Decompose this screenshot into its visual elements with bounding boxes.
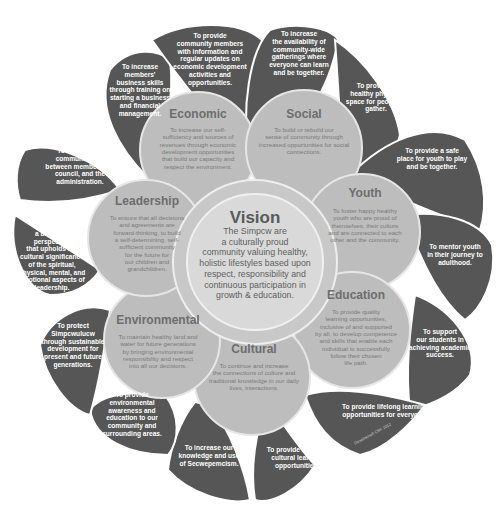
petal-text-lead-communication: To foster good communication between mem… <box>40 147 120 186</box>
petal-text-social-gatherings: To increase the availability of communit… <box>262 30 336 77</box>
petal-text-edu-lifelong: To provide lifelong learning opportuniti… <box>330 403 440 419</box>
pillar-education-text: To provide quality learning opportunitie… <box>306 308 406 367</box>
petal-text-youth-mentor: To mentor youth in their journey to adul… <box>420 243 490 266</box>
petal-text-social-space: To provide a healthy physical space for … <box>340 82 412 113</box>
petal-text-lead-balanced: To provide a balanced perspective that u… <box>12 222 92 292</box>
petal-text-edu-support: To support our students in achieving aca… <box>405 328 475 359</box>
pillar-youth-text: To foster happy healthy youth who are pr… <box>315 207 415 244</box>
pillar-leadership-title: Leadership <box>97 194 197 208</box>
petal-text-cult-language: To increase our knowledge and use of Sec… <box>174 444 244 467</box>
pillar-economic-text: To increase our self- sufficiency and so… <box>148 126 248 170</box>
pillar-youth-title: Youth <box>315 186 415 200</box>
pillar-cultural-title: Cultural <box>204 342 304 356</box>
pillar-education-title: Education <box>306 288 406 302</box>
vision-diagram: Vision The Simpcw are a culturally proud… <box>0 0 498 510</box>
pillar-cultural-text: To continue and increase the connections… <box>200 362 308 391</box>
pillar-leadership-text: To ensure that all decisions and agreeme… <box>97 214 197 273</box>
petal-text-env-awareness: To provide environmental awareness and e… <box>95 391 169 438</box>
petal-text-econ-info: To provide community members with inform… <box>160 32 260 86</box>
petal-text-youth-safe: To provide a safe place for youth to pla… <box>380 147 484 170</box>
petal-text-cult-lifelong: To provide life long cultural learning o… <box>262 446 332 469</box>
pillar-environmental-title: Environmental <box>108 313 208 327</box>
pillar-environmental-text: To maintain healthy land and water for f… <box>108 333 208 370</box>
pillar-social-text: To build or rebuild our sense of communi… <box>250 126 358 155</box>
pillar-social-title: Social <box>254 107 354 121</box>
petal-text-env-protect: To protect Simpcwulucw through sustainab… <box>38 322 108 369</box>
